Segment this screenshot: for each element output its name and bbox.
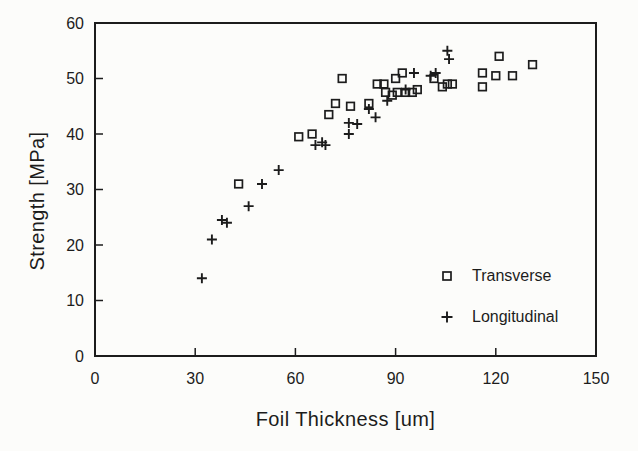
- y-tick-label: 0: [75, 348, 84, 365]
- x-tick-label: 150: [583, 370, 610, 387]
- y-tick-label: 60: [66, 15, 84, 32]
- data-point-square: [393, 89, 401, 97]
- data-point-square: [235, 180, 243, 188]
- legend-item-transverse: Transverse: [438, 266, 551, 286]
- data-point-plus: [207, 234, 217, 244]
- data-point-square: [449, 80, 457, 88]
- data-point-square: [509, 72, 517, 80]
- data-point-square: [308, 130, 316, 138]
- data-point-plus: [382, 96, 392, 106]
- data-point-plus: [409, 68, 419, 78]
- square-marker-icon: [438, 267, 456, 285]
- data-point-square: [332, 100, 340, 108]
- data-point-plus: [274, 165, 284, 175]
- x-tick-label: 90: [387, 370, 405, 387]
- y-tick-label: 20: [66, 237, 84, 254]
- legend-item-longitudinal: Longitudinal: [438, 307, 558, 327]
- y-tick-label: 40: [66, 126, 84, 143]
- data-point-square: [444, 80, 452, 88]
- data-point-plus: [371, 112, 381, 122]
- data-point-plus: [352, 119, 362, 129]
- legend-label-longitudinal: Longitudinal: [472, 308, 558, 326]
- data-point-square: [325, 111, 333, 119]
- x-axis-title: Foil Thickness [um]: [95, 408, 596, 431]
- data-point-square: [529, 61, 537, 69]
- data-point-square: [479, 83, 487, 91]
- plus-marker-icon: [438, 308, 456, 326]
- scatter-plot-canvas: 03060901201500102030405060: [0, 0, 638, 451]
- legend-label-transverse: Transverse: [472, 267, 551, 285]
- data-point-square: [495, 53, 503, 61]
- data-point-plus: [444, 54, 454, 64]
- y-tick-label: 30: [66, 181, 84, 198]
- x-tick-label: 30: [186, 370, 204, 387]
- data-point-plus: [197, 273, 207, 283]
- data-point-square: [338, 75, 346, 83]
- data-point-square: [414, 86, 422, 94]
- x-tick-label: 120: [482, 370, 509, 387]
- y-axis-title: Strength [MPa]: [26, 118, 46, 284]
- data-point-plus: [257, 179, 267, 189]
- figure-root: 03060901201500102030405060 Strength [MPa…: [0, 0, 638, 451]
- data-point-square: [347, 102, 355, 110]
- data-point-plus: [442, 46, 452, 56]
- x-tick-label: 60: [287, 370, 305, 387]
- x-tick-label: 0: [91, 370, 100, 387]
- data-point-square: [479, 69, 487, 77]
- data-point-plus: [244, 201, 254, 211]
- data-point-plus: [344, 129, 354, 139]
- data-point-plus: [344, 118, 354, 128]
- y-tick-label: 10: [66, 292, 84, 309]
- data-point-square: [439, 83, 447, 91]
- data-point-square: [295, 133, 303, 141]
- data-point-square: [492, 72, 500, 80]
- y-tick-label: 50: [66, 70, 84, 87]
